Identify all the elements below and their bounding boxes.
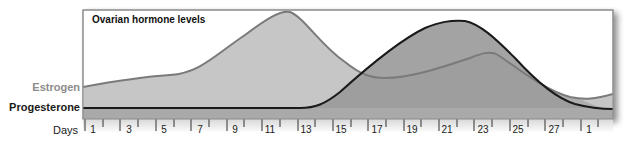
x-tick-label: 3 bbox=[126, 124, 132, 135]
x-tick-label: 9 bbox=[232, 124, 238, 135]
estrogen-series-label: Estrogen bbox=[32, 81, 80, 93]
x-tick-label: 1 bbox=[586, 124, 592, 135]
progesterone-series-label: Progesterone bbox=[9, 101, 80, 113]
x-tick-label: 27 bbox=[548, 124, 559, 135]
x-tick-label: 25 bbox=[512, 124, 523, 135]
x-tick-label: 21 bbox=[441, 124, 452, 135]
x-tick-label: 17 bbox=[371, 124, 382, 135]
x-axis-title: Days bbox=[53, 124, 78, 136]
x-tick-label: 1 bbox=[90, 124, 96, 135]
x-tick-label: 19 bbox=[406, 124, 417, 135]
x-tick-label: 5 bbox=[161, 124, 167, 135]
x-tick-label: 11 bbox=[265, 124, 275, 135]
x-tick-label: 13 bbox=[300, 124, 311, 135]
x-tick-label: 7 bbox=[197, 124, 203, 135]
chart-title: Ovarian hormone levels bbox=[92, 14, 205, 25]
x-tick-label: 23 bbox=[477, 124, 488, 135]
baseline-band bbox=[83, 108, 613, 119]
x-tick-label: 15 bbox=[335, 124, 346, 135]
